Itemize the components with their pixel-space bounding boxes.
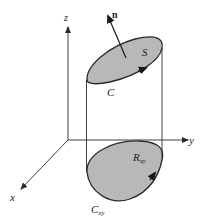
z-axis-label: z xyxy=(63,12,68,23)
x-axis xyxy=(21,140,68,189)
x-axis-label: x xyxy=(9,191,15,203)
boundary-c-label: C xyxy=(107,86,115,98)
y-axis-label: y xyxy=(188,134,194,146)
surface-label: S xyxy=(142,46,148,58)
projected-region xyxy=(87,141,163,201)
diagram-canvas: z y x n S C Rxy Cxy xyxy=(0,0,207,222)
region-rxy-sub: xy xyxy=(139,157,147,165)
surface-s xyxy=(87,37,162,84)
normal-label: n xyxy=(112,9,118,20)
boundary-cxy-sub: xy xyxy=(97,209,105,217)
boundary-cxy-label: Cxy xyxy=(91,203,105,217)
